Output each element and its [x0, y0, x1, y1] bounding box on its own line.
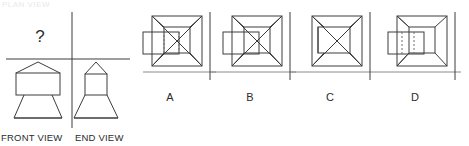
front-view-body	[16, 73, 60, 95]
option-a-inner-square	[164, 27, 190, 53]
projection-question-canvas: PLAN VIEW ? F	[0, 0, 469, 146]
option-a-label: A	[166, 91, 174, 103]
option-c-label: C	[326, 91, 334, 103]
option-b-inner-square	[244, 27, 270, 53]
option-d-label: D	[411, 91, 419, 103]
option-d-inner-square	[409, 27, 435, 53]
end-view-label: END VIEW	[75, 132, 124, 143]
front-view-base	[14, 95, 62, 118]
option-a[interactable]: A	[143, 12, 216, 103]
option-c[interactable]: C	[291, 12, 376, 103]
front-view-roof	[16, 62, 60, 73]
option-b-side-box	[223, 32, 259, 54]
reference-crosshair	[6, 12, 130, 128]
option-b-label: B	[246, 91, 253, 103]
cropped-header-text: PLAN VIEW	[2, 0, 50, 9]
option-d-diag-bl	[397, 53, 409, 66]
option-d-corner-br	[435, 53, 447, 66]
missing-view-question-mark: ?	[35, 27, 44, 46]
option-b[interactable]: B	[211, 12, 296, 103]
question-panel: ? FRONT VIEW END VIEW	[1, 12, 130, 143]
option-d-side-box	[388, 32, 424, 54]
end-view-base	[74, 95, 118, 118]
end-view-roof	[85, 62, 107, 74]
option-d-hidden-edges	[402, 32, 414, 54]
front-view-drawing	[14, 62, 62, 118]
end-view-drawing	[74, 62, 118, 118]
option-d[interactable]: D	[376, 12, 461, 103]
end-view-body	[85, 74, 107, 95]
option-a-side-box	[143, 32, 179, 54]
front-view-label: FRONT VIEW	[1, 132, 62, 143]
option-d-corner-tr	[435, 16, 447, 27]
option-d-diag-tl	[397, 16, 409, 27]
